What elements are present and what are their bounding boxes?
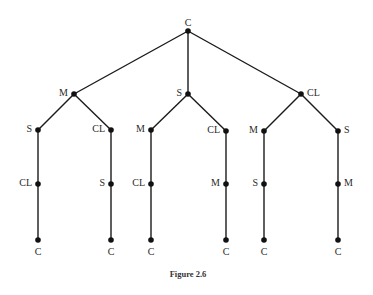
tree-node-dot: [185, 28, 191, 34]
tree-edge: [74, 31, 188, 94]
tree-node-dot: [108, 237, 114, 243]
tree-node-label: S: [99, 177, 105, 188]
tree-node-label: C: [261, 246, 268, 257]
tree-node-label: CL: [132, 177, 145, 188]
tree-node-dot: [261, 237, 267, 243]
tree-node-label: CL: [207, 124, 220, 135]
tree-node-label: CL: [19, 177, 32, 188]
tree-node-dot: [71, 91, 77, 97]
tree-node-label: S: [252, 177, 258, 188]
tree-node-dot: [335, 128, 341, 134]
tree-node-label: C: [35, 246, 42, 257]
tree-node-label: S: [26, 123, 32, 134]
tree-node-label: S: [344, 124, 350, 135]
tree-node-label: M: [211, 177, 220, 188]
tree-node-label: M: [136, 123, 145, 134]
tree-edge: [264, 94, 301, 131]
tree-node-label: M: [344, 177, 353, 188]
figure-caption: Figure 2.6: [170, 269, 207, 279]
tree-node-label: S: [176, 87, 182, 98]
tree-node-dot: [35, 181, 41, 187]
tree-node-label: C: [148, 246, 155, 257]
tree-node-label: C: [108, 246, 115, 257]
tree-node-dot: [108, 181, 114, 187]
tree-edge: [188, 31, 301, 94]
tree-node-dot: [223, 181, 229, 187]
tree-node-dot: [223, 128, 229, 134]
tree-node-label: C: [185, 17, 192, 28]
tree-node-dot: [148, 127, 154, 133]
tree-edge: [301, 94, 338, 131]
tree-node-label: M: [59, 87, 68, 98]
tree-node-label: C: [223, 246, 230, 257]
tree-node-dot: [35, 237, 41, 243]
tree-node-dot: [335, 237, 341, 243]
tree-edge: [151, 94, 188, 130]
tree-node-dot: [148, 237, 154, 243]
tree-node-label: CL: [307, 87, 320, 98]
tree-node-label: M: [249, 124, 258, 135]
tree-node-label: C: [335, 246, 342, 257]
tree-node-dot: [335, 181, 341, 187]
tree-node-dot: [261, 128, 267, 134]
tree-edge: [38, 94, 74, 130]
tree-labels: CMSCLSCLMCLMSCLSCLMSMCCCCCC: [19, 17, 353, 257]
tree-node-label: CL: [92, 123, 105, 134]
tree-node-dot: [108, 127, 114, 133]
tree-node-dot: [298, 91, 304, 97]
tree-node-dot: [223, 237, 229, 243]
tree-edges: [38, 31, 338, 240]
tree-node-dot: [261, 181, 267, 187]
tree-node-dot: [185, 91, 191, 97]
tree-node-dot: [148, 181, 154, 187]
tree-node-dot: [35, 127, 41, 133]
tree-diagram: CMSCLSCLMCLMSCLSCLMSMCCCCCC Figure 2.6: [0, 0, 373, 295]
